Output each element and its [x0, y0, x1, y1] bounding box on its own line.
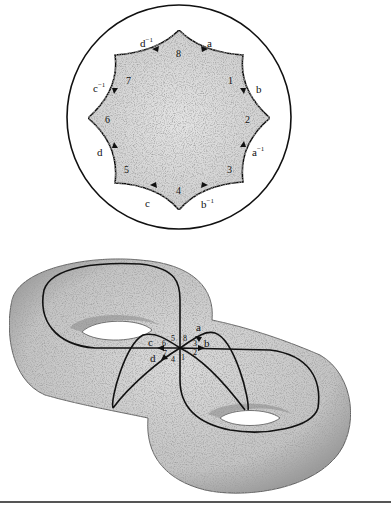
- corner-label-7: 7: [163, 349, 167, 358]
- edge-label-b: b: [256, 83, 262, 95]
- edge-label-a-inverse: a−1: [252, 145, 265, 158]
- corner-label-2: 2: [193, 348, 197, 357]
- vertex-label-7: 7: [126, 75, 131, 86]
- vertex-label-3: 3: [227, 164, 232, 175]
- vertex-label-2: 2: [245, 114, 250, 125]
- poincare-disk-panel: 8 1 2 3 4 5 6 7 a b a−1 b−1 c d c−1 d−1: [67, 5, 291, 229]
- corner-label-3: 3: [193, 339, 197, 348]
- corner-label-4: 4: [171, 355, 175, 364]
- bottom-divider-rule: [0, 501, 391, 503]
- corner-label-8: 8: [183, 334, 187, 343]
- edge-label-d: d: [97, 146, 103, 158]
- edge-label-a: a: [207, 37, 212, 49]
- corner-label-6: 6: [162, 339, 166, 348]
- corner-label-1: 1: [181, 353, 185, 362]
- vertex-label-4: 4: [176, 185, 181, 196]
- double-torus-panel: a b c d 1 2 3 4 5 6 7 8: [9, 259, 350, 493]
- vertex-label-8: 8: [176, 48, 181, 59]
- corner-label-5: 5: [171, 334, 175, 343]
- vertex-label-1: 1: [228, 75, 233, 86]
- loop-label-d: d: [150, 352, 156, 364]
- vertex-label-6: 6: [105, 114, 110, 125]
- loop-label-c: c: [148, 336, 153, 348]
- loop-label-a: a: [196, 321, 201, 333]
- vertex-label-5: 5: [124, 164, 129, 175]
- hyperbolic-octagon-and-double-torus-figure: 8 1 2 3 4 5 6 7 a b a−1 b−1 c d c−1 d−1: [0, 0, 391, 507]
- edge-label-b-inverse: b−1: [201, 197, 214, 210]
- loop-label-b: b: [204, 337, 210, 349]
- edge-label-c-inverse: c−1: [93, 81, 106, 94]
- edge-label-c: c: [145, 197, 150, 209]
